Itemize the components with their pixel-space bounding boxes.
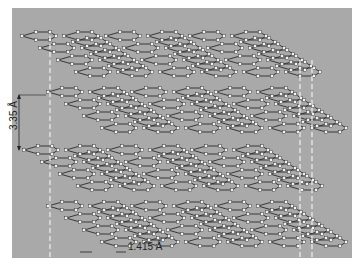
- graphite-layer: [46, 200, 347, 247]
- graphite-layers-diagram: [0, 0, 363, 279]
- bond-length-label: 1.415 Å: [128, 241, 162, 252]
- graphite-layer: [46, 86, 347, 133]
- graphite-layer: [20, 30, 321, 77]
- graphite-layer: [22, 144, 323, 191]
- interlayer-spacing-label: 3.35 Å: [8, 101, 19, 130]
